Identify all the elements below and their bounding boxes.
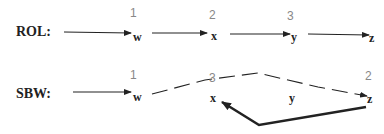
node-z-sbw: z xyxy=(367,92,372,107)
rol-arrow-y-z xyxy=(308,34,369,35)
node-z-rol: z xyxy=(369,31,374,46)
node-w-sbw: w xyxy=(133,90,142,105)
node-x-rol: x xyxy=(211,29,217,44)
row-label-rol: ROL: xyxy=(16,24,51,40)
order-number-w-sbw: 1 xyxy=(130,68,137,82)
row-label-sbw: SBW: xyxy=(16,86,51,102)
order-number-x-sbw: 3 xyxy=(209,71,216,85)
order-diagram: ROL: 1 2 3 w x y z SBW: 1 3 2 w x y z xyxy=(0,0,384,134)
order-number-w-rol: 1 xyxy=(130,6,137,20)
node-x-sbw: x xyxy=(210,91,216,106)
diagram-arrows xyxy=(0,0,384,134)
order-number-x-rol: 2 xyxy=(209,8,216,22)
node-y-rol: y xyxy=(291,30,297,45)
node-w-rol: w xyxy=(133,30,142,45)
order-number-y-rol: 3 xyxy=(287,9,294,23)
order-number-z-sbw: 2 xyxy=(365,69,372,83)
node-y-sbw: y xyxy=(289,91,295,106)
sbw-dashed-arrow-w-z xyxy=(152,73,367,96)
rol-arrow-start-w xyxy=(64,32,131,33)
